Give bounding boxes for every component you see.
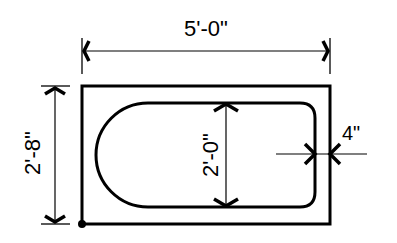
basin-width-dimension: 2'-0" xyxy=(198,104,238,206)
rim-label: 4" xyxy=(342,122,360,144)
width-label: 2'-8" xyxy=(20,131,45,175)
bathtub-dimension-diagram: 5'-0" 2'-8" 2'-0" 4" xyxy=(0,0,397,243)
rim-dimension: 4" xyxy=(276,122,367,164)
basin-width-label: 2'-0" xyxy=(198,133,223,177)
length-dimension: 5'-0" xyxy=(82,16,330,74)
width-dimension: 2'-8" xyxy=(20,86,70,224)
length-label: 5'-0" xyxy=(184,16,228,41)
corner-point xyxy=(78,220,86,228)
